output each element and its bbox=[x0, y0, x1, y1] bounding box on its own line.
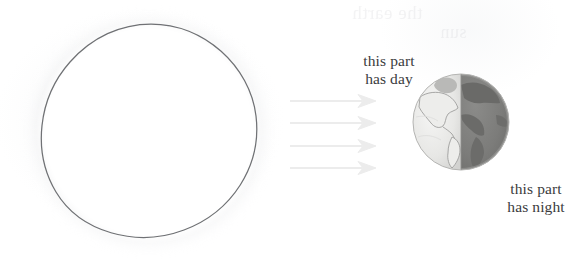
sunlight-arrow bbox=[290, 117, 376, 130]
sun bbox=[18, 6, 280, 258]
label-day: this part has day bbox=[352, 52, 426, 89]
label-night: this part has night bbox=[494, 180, 578, 217]
bleed-through-text: sun bbox=[440, 22, 467, 43]
diagram-canvas: the earth sun night the earth sun bbox=[0, 0, 588, 262]
sunlight-arrow bbox=[290, 140, 376, 153]
sun-outline-icon bbox=[18, 6, 280, 258]
sunlight-arrow bbox=[290, 162, 376, 175]
sunlight-arrows bbox=[288, 86, 384, 182]
bleed-through-text: the earth bbox=[352, 2, 422, 24]
sunlight-arrow bbox=[290, 95, 376, 108]
